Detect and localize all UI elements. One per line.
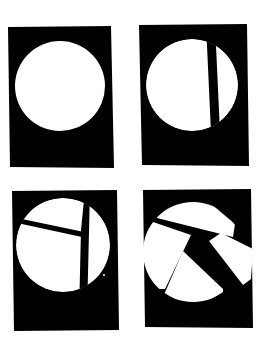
- split-two-figure: [139, 24, 249, 166]
- fragmented-figure: [143, 189, 253, 328]
- whole-circle-figure: [8, 26, 114, 168]
- circle-shape: [15, 41, 105, 131]
- panel-circle-split-three: [12, 190, 119, 331]
- panel-circle-split-two: [139, 24, 249, 166]
- split-three-figure: [12, 190, 119, 331]
- panel-whole-circle: [8, 26, 114, 168]
- panel-circle-fragmented: [143, 189, 253, 328]
